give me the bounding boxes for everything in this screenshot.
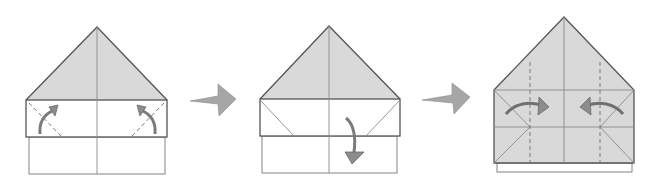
step-arrow-2-icon xyxy=(422,83,470,114)
origami-diagram: .outline { stroke: #555; stroke-width: 1… xyxy=(0,0,656,189)
step-2 xyxy=(260,26,400,173)
step-1 xyxy=(26,27,167,174)
step-2-lower-panel xyxy=(262,136,397,173)
step-3-bottom-strip xyxy=(497,163,632,172)
step-2-band xyxy=(260,99,400,136)
step-arrow-1-icon xyxy=(190,84,236,116)
step-1-band xyxy=(26,100,167,137)
step-2-triangle xyxy=(260,26,400,99)
step-1-triangle xyxy=(26,27,167,100)
step-3 xyxy=(494,17,634,172)
